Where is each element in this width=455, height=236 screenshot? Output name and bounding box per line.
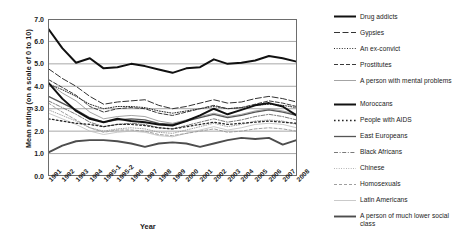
plot-area	[48, 19, 297, 176]
y-tick-label: 0.0	[18, 173, 44, 180]
legend-line-swatch	[334, 116, 356, 125]
y-tick-label: 1.0	[18, 150, 44, 157]
legend-label: Homosexuals	[360, 180, 401, 188]
y-axis-tick-labels: 0.01.02.03.04.05.06.07.0	[14, 0, 44, 236]
legend-line-swatch	[334, 28, 356, 37]
legend-line-swatch	[334, 100, 356, 109]
x-axis-tick-labels: 19911992199319941995-11995-2199619971998…	[48, 178, 297, 220]
legend-label: East Europeans	[360, 132, 408, 140]
legend-item[interactable]: A person with mental problems	[334, 76, 455, 85]
legend-label: People with AIDS	[360, 116, 412, 124]
legend-line-swatch	[334, 44, 356, 53]
legend-label: Chinese	[360, 164, 385, 172]
y-tick-label: 6.0	[18, 38, 44, 45]
legend-item[interactable]: Black Africans	[334, 148, 455, 157]
legend-item[interactable]: Moroccans	[334, 100, 455, 109]
legend-line-swatch	[334, 196, 356, 205]
legend-item[interactable]: Drug addicts	[334, 12, 455, 21]
legend-item[interactable]: A person of much lower social class	[334, 212, 455, 228]
legend-label: Prostitutes	[360, 60, 392, 68]
legend-item[interactable]: People with AIDS	[334, 116, 455, 125]
legend-item[interactable]: Homosexuals	[334, 180, 455, 189]
chart-legend: Drug addictsGypsiesAn ex-convictProstitu…	[334, 12, 455, 227]
y-tick-label: 5.0	[18, 60, 44, 67]
legend-label: Gypsies	[360, 28, 384, 36]
legend-item[interactable]: East Europeans	[334, 132, 455, 141]
legend-label: Latin Americans	[360, 196, 408, 204]
legend-item[interactable]: Latin Americans	[334, 196, 455, 205]
plot-svg	[48, 19, 297, 176]
legend-line-swatch	[334, 180, 356, 189]
series-line	[49, 138, 297, 153]
legend-line-swatch	[334, 132, 356, 141]
series-line	[49, 29, 297, 73]
legend-item[interactable]: Prostitutes	[334, 60, 455, 69]
legend-label: An ex-convict	[360, 44, 400, 52]
legend-line-swatch	[334, 164, 356, 173]
series-lines	[49, 29, 297, 152]
y-tick-label: 2.0	[18, 128, 44, 135]
series-line	[49, 83, 297, 126]
y-tick-label: 3.0	[18, 105, 44, 112]
y-tick-label: 7.0	[18, 16, 44, 23]
y-tick-label: 4.0	[18, 83, 44, 90]
legend-item[interactable]: An ex-convict	[334, 44, 455, 53]
legend-label: Moroccans	[360, 100, 393, 108]
legend-line-swatch	[334, 76, 356, 85]
x-axis-title: Year	[140, 222, 156, 231]
legend-line-swatch	[334, 60, 356, 69]
legend-line-swatch	[334, 148, 356, 157]
legend-item[interactable]: Gypsies	[334, 28, 455, 37]
legend-line-swatch	[334, 12, 356, 21]
legend-label: A person with mental problems	[360, 76, 452, 84]
legend-label: Black Africans	[360, 148, 402, 156]
legend-item[interactable]: Chinese	[334, 164, 455, 173]
legend-line-swatch	[334, 212, 356, 221]
line-chart-figure: Mean rating (on a scale of 0 to 10) 0.01…	[0, 0, 455, 236]
legend-label: A person of much lower social class	[360, 212, 455, 228]
legend-label: Drug addicts	[360, 12, 398, 20]
